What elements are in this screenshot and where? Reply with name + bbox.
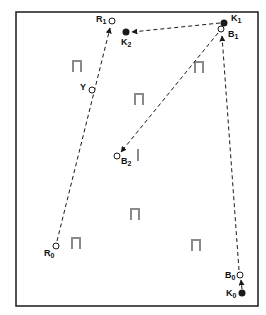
filled-point-icon	[239, 290, 246, 297]
open-point-icon	[89, 87, 95, 93]
gate-marker-icon	[135, 94, 143, 105]
filled-point-icon	[221, 20, 228, 27]
point-label-r1: R1	[96, 15, 106, 25]
point-label-r0: R0	[44, 249, 54, 259]
open-point-icon	[218, 26, 224, 32]
point-label-b1: B1	[228, 30, 238, 40]
gate-marker-icon	[192, 240, 200, 251]
gate-marker-icon	[72, 238, 80, 249]
arrow-r0-to-r1	[57, 28, 110, 241]
point-label-y: Y	[80, 83, 86, 92]
point-label-b0: B0	[225, 271, 235, 281]
gate-marker-icon	[131, 209, 139, 220]
gate-marker-icon	[73, 61, 81, 72]
open-point-icon	[109, 18, 115, 24]
arrow-b1-to-b2	[121, 33, 218, 152]
movement-arrows	[57, 23, 242, 289]
arrow-k0-to-b0	[241, 280, 242, 289]
trajectory-diagram	[0, 0, 266, 315]
position-points	[53, 18, 246, 297]
filled-point-icon	[123, 29, 130, 36]
point-label-k0: K0	[226, 289, 236, 299]
open-point-icon	[237, 272, 243, 278]
gate-marker-icon	[195, 62, 203, 73]
arrow-b0-to-b1	[222, 36, 239, 270]
arrow-k1-to-k2	[132, 23, 220, 32]
open-point-icon	[114, 153, 120, 159]
point-label-k2: K2	[121, 38, 131, 48]
point-label-b2: B2	[121, 157, 131, 167]
point-label-k1: K1	[231, 14, 241, 24]
